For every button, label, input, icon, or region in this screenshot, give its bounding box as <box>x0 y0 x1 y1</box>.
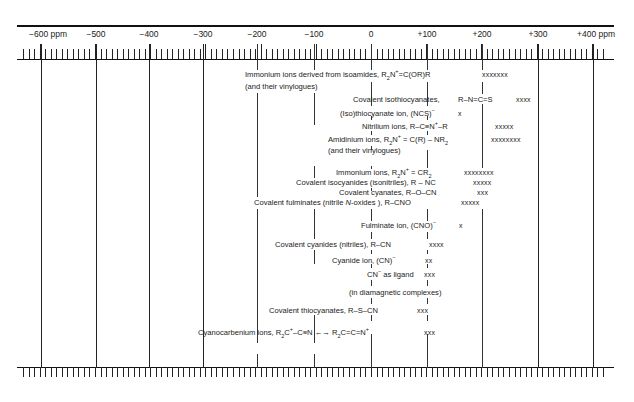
minor-tick <box>597 367 598 377</box>
minor-tick <box>492 367 493 377</box>
marker-cyanates: xxx <box>477 188 488 197</box>
minor-tick <box>134 49 135 59</box>
minor-tick <box>454 367 455 377</box>
minor-tick <box>167 367 168 377</box>
minor-tick <box>432 367 433 377</box>
label-isothiocyanates-formula: R–N=C=S <box>458 95 493 104</box>
minor-tick <box>459 49 460 59</box>
minor-tick <box>586 367 587 377</box>
minor-tick <box>244 367 245 377</box>
tick-label-minus300: −300 <box>193 29 212 39</box>
minor-tick <box>388 367 389 377</box>
top-axis-line <box>17 59 614 60</box>
minor-tick <box>564 367 565 377</box>
minor-tick <box>520 49 521 59</box>
minor-tick <box>448 367 449 377</box>
minor-tick <box>67 49 68 59</box>
minor-tick <box>432 49 433 59</box>
minor-tick <box>476 49 477 59</box>
minor-tick <box>332 49 333 59</box>
minor-tick <box>465 367 466 377</box>
gridline-plus100-seg <box>427 209 428 221</box>
gridline-minus500 <box>96 44 97 368</box>
gridline-0-seg <box>371 298 372 304</box>
minor-tick <box>128 367 129 377</box>
tick-label-0: 0 <box>369 29 374 39</box>
minor-tick <box>266 49 267 59</box>
top-border-rule <box>17 25 614 27</box>
minor-tick <box>51 49 52 59</box>
major-tick <box>537 367 538 377</box>
minor-tick <box>365 49 366 59</box>
minor-tick <box>227 49 228 59</box>
minor-tick <box>200 367 201 377</box>
minor-tick <box>465 49 466 59</box>
major-tick <box>371 367 372 377</box>
major-tick <box>592 367 593 377</box>
minor-tick <box>78 367 79 377</box>
minor-tick <box>305 367 306 377</box>
gridline-0-seg <box>371 280 372 286</box>
gridline-minus100-seg <box>314 44 315 70</box>
minor-tick <box>575 49 576 59</box>
minor-tick <box>23 367 24 377</box>
minor-tick <box>415 367 416 377</box>
minor-tick <box>354 49 355 59</box>
gridline-minus200-seg <box>257 44 258 70</box>
gridline-minus100-seg <box>314 250 315 264</box>
minor-tick <box>145 367 146 377</box>
gridline-plus400 <box>593 44 594 368</box>
minor-tick <box>421 367 422 377</box>
minor-tick <box>459 367 460 377</box>
minor-tick <box>266 367 267 377</box>
minor-tick <box>117 367 118 377</box>
minor-tick <box>520 367 521 377</box>
minor-tick <box>388 49 389 59</box>
minor-tick <box>586 49 587 59</box>
gridline-plus100-seg <box>427 315 428 321</box>
minor-tick <box>515 49 516 59</box>
minor-tick <box>454 49 455 59</box>
minor-tick <box>84 367 85 377</box>
minor-tick <box>29 367 30 377</box>
label-cyanides: Covalent cyanides (nitriles), R–CN <box>275 240 391 249</box>
label-cn-ligand: CN− as ligand <box>367 270 414 279</box>
minor-tick <box>172 367 173 377</box>
minor-tick <box>145 49 146 59</box>
minor-tick <box>310 49 311 59</box>
minor-tick <box>399 367 400 377</box>
minor-tick <box>354 367 355 377</box>
minor-tick <box>294 367 295 377</box>
minor-tick <box>382 367 383 377</box>
minor-tick <box>200 49 201 59</box>
marker-isocyanides: xxxxx <box>473 178 492 187</box>
minor-tick <box>73 49 74 59</box>
minor-tick <box>509 49 510 59</box>
minor-tick <box>73 367 74 377</box>
minor-tick <box>365 367 366 377</box>
minor-tick <box>277 49 278 59</box>
minor-tick <box>393 367 394 377</box>
gridline-0-seg <box>371 44 372 70</box>
minor-tick <box>178 49 179 59</box>
minor-tick <box>172 49 173 59</box>
minor-tick <box>222 49 223 59</box>
minor-tick <box>272 367 273 377</box>
marker-cn-ligand: xxx <box>424 270 435 279</box>
minor-tick <box>581 367 582 377</box>
minor-tick <box>553 367 554 377</box>
minor-tick <box>216 367 217 377</box>
minor-tick <box>250 49 251 59</box>
label-immonium: Immonium ions, R2N+ = CR2 <box>336 168 432 177</box>
gridline-0-seg <box>371 334 372 368</box>
minor-tick <box>487 367 488 377</box>
minor-tick <box>487 49 488 59</box>
label-immonium-isoamides: Immonium ions derived from isoamides, R2… <box>245 70 430 79</box>
major-tick <box>481 367 482 377</box>
minor-tick <box>476 367 477 377</box>
label-cyanates: Covalent cyanates, R–O–CN <box>339 188 437 197</box>
minor-tick <box>211 367 212 377</box>
gridline-plus300 <box>538 44 539 368</box>
major-tick <box>40 367 41 377</box>
major-tick <box>261 44 262 59</box>
